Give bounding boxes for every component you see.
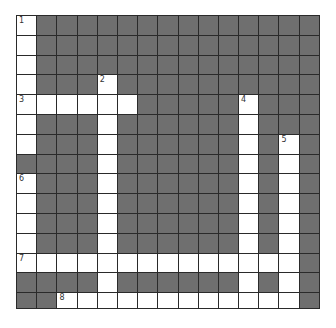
letter-input[interactable] (37, 95, 56, 114)
letter-input[interactable] (98, 234, 117, 253)
crossword-cell-open[interactable] (57, 254, 77, 274)
letter-input[interactable] (98, 293, 117, 308)
letter-input[interactable] (17, 135, 36, 154)
letter-input[interactable] (78, 293, 97, 308)
crossword-cell-open[interactable]: 5 (279, 135, 299, 155)
letter-input[interactable] (239, 174, 258, 193)
crossword-cell-open[interactable] (279, 273, 299, 293)
letter-input[interactable] (98, 194, 117, 213)
crossword-cell-open[interactable] (37, 95, 57, 115)
letter-input[interactable] (17, 214, 36, 233)
letter-input[interactable] (118, 254, 137, 273)
letter-input[interactable] (17, 254, 36, 273)
crossword-cell-open[interactable] (239, 194, 259, 214)
crossword-cell-open[interactable] (279, 155, 299, 175)
crossword-cell-open[interactable] (199, 254, 219, 274)
crossword-cell-open[interactable] (219, 254, 239, 274)
letter-input[interactable] (57, 254, 76, 273)
crossword-cell-open[interactable] (239, 214, 259, 234)
letter-input[interactable] (98, 273, 117, 292)
letter-input[interactable] (239, 135, 258, 154)
letter-input[interactable] (17, 75, 36, 94)
letter-input[interactable] (118, 293, 137, 308)
crossword-cell-open[interactable] (17, 75, 37, 95)
crossword-cell-open[interactable] (98, 174, 118, 194)
crossword-cell-open[interactable] (98, 214, 118, 234)
letter-input[interactable] (179, 293, 198, 308)
crossword-cell-open[interactable] (78, 293, 98, 309)
letter-input[interactable] (239, 214, 258, 233)
letter-input[interactable] (259, 254, 278, 273)
crossword-cell-open[interactable] (17, 194, 37, 214)
crossword-cell-open[interactable] (239, 254, 259, 274)
crossword-cell-open[interactable] (98, 254, 118, 274)
letter-input[interactable] (98, 174, 117, 193)
letter-input[interactable] (17, 16, 36, 35)
letter-input[interactable] (199, 293, 218, 308)
crossword-cell-open[interactable] (37, 254, 57, 274)
letter-input[interactable] (279, 194, 298, 213)
crossword-cell-open[interactable]: 8 (57, 293, 77, 309)
letter-input[interactable] (17, 174, 36, 193)
crossword-cell-open[interactable] (239, 273, 259, 293)
crossword-cell-open[interactable] (17, 115, 37, 135)
letter-input[interactable] (98, 254, 117, 273)
letter-input[interactable] (118, 95, 137, 114)
letter-input[interactable] (98, 214, 117, 233)
letter-input[interactable] (239, 254, 258, 273)
letter-input[interactable] (78, 95, 97, 114)
crossword-cell-open[interactable] (259, 293, 279, 309)
letter-input[interactable] (239, 293, 258, 308)
letter-input[interactable] (17, 194, 36, 213)
letter-input[interactable] (279, 174, 298, 193)
crossword-cell-open[interactable] (98, 234, 118, 254)
crossword-cell-open[interactable] (118, 95, 138, 115)
letter-input[interactable] (78, 254, 97, 273)
crossword-cell-open[interactable] (98, 135, 118, 155)
letter-input[interactable] (239, 115, 258, 134)
crossword-cell-open[interactable] (138, 254, 158, 274)
letter-input[interactable] (138, 293, 157, 308)
letter-input[interactable] (138, 254, 157, 273)
letter-input[interactable] (98, 75, 117, 94)
crossword-cell-open[interactable] (279, 214, 299, 234)
letter-input[interactable] (98, 135, 117, 154)
letter-input[interactable] (179, 254, 198, 273)
crossword-cell-open[interactable] (239, 155, 259, 175)
letter-input[interactable] (239, 194, 258, 213)
crossword-cell-open[interactable] (199, 293, 219, 309)
crossword-cell-open[interactable] (259, 254, 279, 274)
letter-input[interactable] (279, 234, 298, 253)
crossword-cell-open[interactable] (239, 174, 259, 194)
crossword-cell-open[interactable] (98, 115, 118, 135)
crossword-cell-open[interactable] (279, 234, 299, 254)
letter-input[interactable] (239, 95, 258, 114)
crossword-cell-open[interactable] (179, 293, 199, 309)
letter-input[interactable] (98, 155, 117, 174)
crossword-cell-open[interactable] (57, 95, 77, 115)
letter-input[interactable] (279, 155, 298, 174)
crossword-cell-open[interactable] (98, 95, 118, 115)
crossword-cell-open[interactable] (279, 293, 299, 309)
letter-input[interactable] (239, 234, 258, 253)
crossword-cell-open[interactable]: 1 (17, 16, 37, 36)
crossword-cell-open[interactable] (17, 214, 37, 234)
crossword-cell-open[interactable] (17, 135, 37, 155)
crossword-cell-open[interactable] (219, 293, 239, 309)
letter-input[interactable] (98, 95, 117, 114)
crossword-cell-open[interactable] (158, 293, 178, 309)
letter-input[interactable] (17, 95, 36, 114)
crossword-cell-open[interactable] (239, 135, 259, 155)
crossword-cell-open[interactable] (17, 56, 37, 76)
letter-input[interactable] (98, 115, 117, 134)
crossword-cell-open[interactable] (279, 194, 299, 214)
crossword-cell-open[interactable] (17, 36, 37, 56)
letter-input[interactable] (219, 254, 238, 273)
crossword-cell-open[interactable] (78, 95, 98, 115)
crossword-cell-open[interactable] (279, 254, 299, 274)
crossword-cell-open[interactable] (78, 254, 98, 274)
letter-input[interactable] (279, 273, 298, 292)
crossword-cell-open[interactable] (239, 115, 259, 135)
letter-input[interactable] (158, 293, 177, 308)
crossword-cell-open[interactable] (279, 174, 299, 194)
